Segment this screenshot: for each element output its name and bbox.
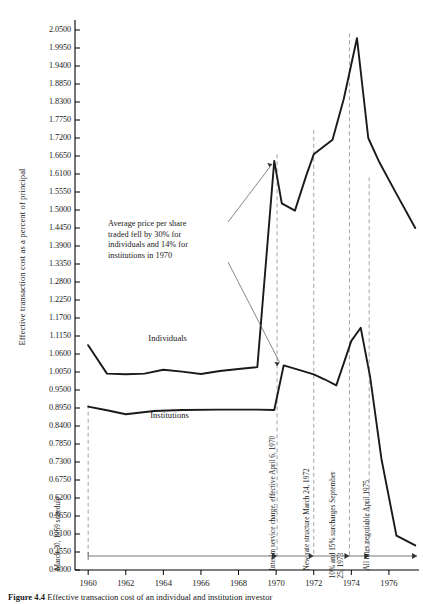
- y-axis-tick-label: 1.9400: [25, 61, 71, 70]
- figure-number: Figure 4.4: [8, 592, 45, 602]
- figure-container: Effective transaction cost as a percent …: [0, 0, 423, 604]
- series-line-individuals: [88, 38, 415, 374]
- annotation-line: individuals and 14% for: [108, 240, 228, 251]
- y-axis-tick-label: 1.0050: [25, 367, 71, 376]
- event-label-line2: 25, 1973: [337, 472, 345, 579]
- x-axis-tick-label: 1974: [331, 578, 371, 588]
- x-axis-tick-label: 1960: [68, 578, 108, 588]
- annotation-line: Average price per share: [108, 219, 228, 230]
- y-axis-tick-label: 0.5100: [25, 529, 71, 538]
- annotation-leader-line-individuals: [228, 164, 272, 222]
- figure-caption: Figure 4.4 Effective transaction cost of…: [8, 592, 418, 602]
- y-axis-tick-label: 0.4000: [25, 565, 71, 574]
- y-axis-tick-label: 1.2250: [25, 295, 71, 304]
- event-label: Interim service charge, effective April …: [269, 436, 277, 571]
- y-axis-tick-label: 1.5000: [25, 205, 71, 214]
- event-label: New rate structure March 24, 1972: [303, 468, 311, 570]
- x-axis-tick-label: 1968: [219, 578, 259, 588]
- event-label: March 30, 1959 schedule: [54, 497, 62, 571]
- y-axis-tick-label: 1.8300: [25, 97, 71, 106]
- y-axis-tick-label: 0.4550: [25, 547, 71, 556]
- y-axis-tick-label: 1.1700: [25, 313, 71, 322]
- series-label-institutions: Institutions: [150, 410, 189, 420]
- y-axis-tick-label: 0.7850: [25, 439, 71, 448]
- timeline-arrow-left: [344, 553, 349, 559]
- y-axis-tick-label: 0.6750: [25, 475, 71, 484]
- chart-annotation: Average price per sharetraded fell by 30…: [108, 219, 228, 261]
- y-axis-tick-label: 1.7750: [25, 115, 71, 124]
- y-axis-tick-label: 1.1150: [25, 331, 71, 340]
- y-axis-tick-label: 1.5550: [25, 187, 71, 196]
- y-axis-tick-label: 0.7300: [25, 457, 71, 466]
- y-axis-tick-label: 0.9500: [25, 385, 71, 394]
- x-axis-tick-label: 1966: [181, 578, 221, 588]
- y-axis-tick-label: 0.8950: [25, 403, 71, 412]
- x-axis-tick-label: 1962: [106, 578, 146, 588]
- annotation-line: traded fell by 30% for: [108, 230, 228, 241]
- timeline-arrow-right: [412, 553, 417, 559]
- y-axis-tick-label: 1.4450: [25, 223, 71, 232]
- y-axis-tick-label: 1.9950: [25, 43, 71, 52]
- y-axis-tick-label: 1.6650: [25, 151, 71, 160]
- y-axis-tick-label: 1.3900: [25, 241, 71, 250]
- event-label: All rates negotiable April 1975: [363, 480, 371, 570]
- y-axis-tick-label: 1.6100: [25, 169, 71, 178]
- y-axis-tick-label: 1.8850: [25, 79, 71, 88]
- x-axis-tick-label: 1972: [294, 578, 334, 588]
- x-axis-tick-label: 1976: [369, 578, 409, 588]
- annotation-line: institutions in 1970: [108, 251, 228, 262]
- y-axis-tick-label: 1.0600: [25, 349, 71, 358]
- x-axis-tick-label: 1964: [143, 578, 183, 588]
- y-axis-tick-label: 0.8400: [25, 421, 71, 430]
- y-axis-tick-label: 1.3350: [25, 259, 71, 268]
- y-axis-tick-label: 0.6200: [25, 493, 71, 502]
- annotation-leader-line-institutions: [228, 262, 280, 362]
- figure-caption-text: Effective transaction cost of an individ…: [47, 592, 272, 602]
- annotation-arrowhead-institutions: [274, 362, 279, 366]
- y-axis-tick-label: 1.2800: [25, 277, 71, 286]
- y-axis-tick-label: 2.0500: [25, 25, 71, 34]
- event-label-surcharges: 10% and 15% surcharges September25, 1973: [329, 472, 345, 579]
- y-axis-tick-label: 0.5650: [25, 511, 71, 520]
- series-label-individuals: Individuals: [148, 333, 187, 343]
- x-axis-tick-label: 1970: [256, 578, 296, 588]
- y-axis-tick-label: 1.7200: [25, 133, 71, 142]
